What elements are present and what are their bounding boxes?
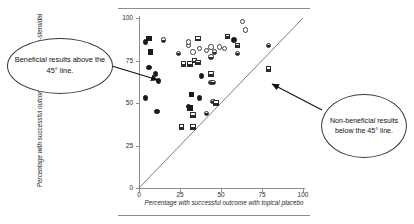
data-point	[208, 54, 213, 59]
data-point	[190, 112, 195, 117]
data-point	[190, 124, 195, 129]
data-point	[148, 49, 153, 54]
y-tick-mark	[136, 18, 139, 19]
figure-container: Percentage with successful outcome with …	[0, 0, 414, 224]
data-point	[146, 65, 151, 70]
data-point	[153, 71, 158, 76]
data-point	[222, 46, 227, 51]
y-tick-label: 100	[111, 14, 133, 21]
data-point	[190, 49, 195, 54]
y-tick-label: 75	[111, 57, 133, 64]
data-point	[199, 73, 204, 78]
data-point	[266, 66, 271, 71]
data-point	[189, 92, 194, 97]
data-point	[143, 95, 148, 100]
y-tick-label: 25	[111, 142, 133, 149]
callout-beneficial: Beneficial results above the 45° line.	[7, 38, 113, 94]
callout-beneficial-text: Beneficial results above the 45° line.	[14, 55, 106, 76]
x-tick-label: 50	[209, 191, 233, 198]
data-point	[156, 78, 161, 83]
x-tick-label: 25	[168, 191, 192, 198]
data-point	[179, 124, 184, 129]
y-tick-label: 0	[111, 184, 133, 191]
data-point	[161, 37, 166, 42]
data-point	[176, 51, 181, 56]
data-point	[243, 27, 248, 32]
data-point	[154, 109, 159, 114]
data-point	[146, 36, 151, 41]
data-point	[195, 60, 200, 65]
data-point	[197, 46, 202, 51]
data-point	[195, 36, 200, 41]
data-point	[197, 95, 202, 100]
data-point	[208, 71, 213, 76]
data-point	[186, 39, 191, 44]
y-tick-mark	[136, 103, 139, 104]
data-point	[235, 51, 240, 56]
data-point	[225, 34, 230, 39]
data-point	[266, 43, 271, 48]
callout-non-beneficial: Non-beneficial results below the 45° lin…	[321, 94, 407, 158]
plot-area	[139, 18, 303, 188]
x-tick-label: 0	[127, 191, 151, 198]
top-rule	[118, 8, 310, 9]
x-axis-title: Percentage with successful outcome with …	[139, 199, 309, 206]
data-point	[213, 100, 218, 105]
data-point	[210, 80, 215, 85]
y-tick-mark	[136, 146, 139, 147]
y-tick-mark	[136, 61, 139, 62]
y-tick-label: 50	[111, 99, 133, 106]
x-tick-label: 75	[250, 191, 274, 198]
data-point	[187, 105, 192, 110]
data-point	[204, 111, 209, 116]
bottom-rule	[118, 215, 310, 216]
x-tick-label: 100	[291, 191, 315, 198]
callout-non-beneficial-text: Non-beneficial results below the 45° lin…	[328, 116, 400, 137]
data-point	[240, 19, 245, 24]
data-point	[235, 43, 240, 48]
data-point	[181, 61, 186, 66]
